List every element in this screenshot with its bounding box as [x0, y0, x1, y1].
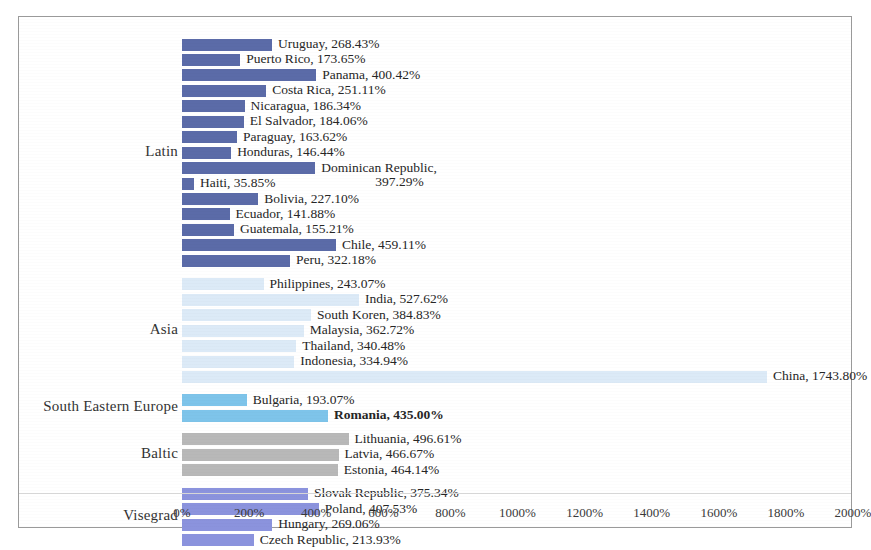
- bar-row: Chile, 459.11%: [19, 238, 851, 254]
- bar: [182, 147, 231, 159]
- bar: [182, 449, 339, 461]
- bar: [182, 394, 247, 406]
- bar-row: Thailand, 340.48%: [19, 339, 851, 355]
- bar-value-label: Guatemala, 155.21%: [240, 221, 354, 237]
- bar-value-label: Puerto Rico, 173.65%: [246, 51, 365, 67]
- bar-value-label: Philippines, 243.07%: [270, 276, 386, 292]
- bar-row: Haiti, 35.85%: [19, 176, 851, 192]
- bar: [182, 371, 767, 383]
- bar: [182, 433, 349, 445]
- bar: [182, 239, 336, 251]
- bar-row: Nicaragua, 186.34%: [19, 99, 851, 115]
- bar-row: Czech Republic, 213.93%: [19, 533, 851, 549]
- bar-value-label: Lithuania, 496.61%: [355, 431, 462, 447]
- bar-value-label: Haiti, 35.85%: [200, 175, 275, 191]
- bar: [182, 100, 245, 112]
- bar-value-label: Malaysia, 362.72%: [310, 322, 415, 338]
- bar-row: Ecuador, 141.88%: [19, 207, 851, 223]
- bar-row: Estonia, 464.14%: [19, 463, 851, 479]
- bar: [182, 309, 311, 321]
- bar-value-label: Ecuador, 141.88%: [236, 206, 336, 222]
- x-axis-tick-label: 800%: [435, 505, 465, 521]
- bar-value-label: Costa Rica, 251.11%: [272, 82, 385, 98]
- bar-row: Puerto Rico, 173.65%: [19, 52, 851, 68]
- bar-row: India, 527.62%: [19, 292, 851, 308]
- bar: [182, 255, 290, 267]
- x-axis-line: [19, 493, 851, 494]
- group-label-south-eastern-europe: South Eastern Europe: [43, 398, 178, 415]
- bar: [182, 69, 316, 81]
- bar-value-label: South Koren, 384.83%: [317, 307, 441, 323]
- x-axis-tick-label: 400%: [301, 505, 331, 521]
- bar: [182, 178, 194, 190]
- bar-row: China, 1743.80%: [19, 369, 851, 385]
- x-axis: 0%200%400%600%800%1000%1200%1400%1600%18…: [19, 487, 851, 527]
- bar: [182, 54, 240, 66]
- bar-row: Peru, 322.18%: [19, 253, 851, 269]
- bar-row: Guatemala, 155.21%: [19, 222, 851, 238]
- bar-row: Paraguay, 163.62%: [19, 130, 851, 146]
- bar-value-label: India, 527.62%: [365, 291, 448, 307]
- bar-row: Costa Rica, 251.11%: [19, 83, 851, 99]
- x-axis-tick-label: 600%: [368, 505, 398, 521]
- bar-row: Panama, 400.42%: [19, 68, 851, 84]
- bar: [182, 116, 244, 128]
- bar: [182, 131, 237, 143]
- bar-row: South Koren, 384.83%: [19, 308, 851, 324]
- x-axis-tick-label: 200%: [234, 505, 264, 521]
- group-label-asia: Asia: [150, 321, 178, 338]
- x-axis-tick-label: 1600%: [700, 505, 737, 521]
- bar-value-label: Thailand, 340.48%: [302, 338, 405, 354]
- bar: [182, 224, 234, 236]
- x-axis-tick-label: 1800%: [767, 505, 804, 521]
- bar-value-label: Honduras, 146.44%: [237, 144, 345, 160]
- bar-value-label: Romania, 435.00%: [334, 407, 444, 423]
- bar-value-label: Panama, 400.42%: [322, 67, 420, 83]
- bar-row: Philippines, 243.07%: [19, 277, 851, 293]
- chart-plot-area: Uruguay, 268.43%Puerto Rico, 173.65%Pana…: [19, 17, 851, 527]
- bar-value-label: Paraguay, 163.62%: [243, 129, 347, 145]
- x-axis-tick-label: 1400%: [633, 505, 670, 521]
- bar: [182, 356, 294, 368]
- bar: [182, 162, 315, 174]
- bar-value-label: Estonia, 464.14%: [344, 462, 440, 478]
- bar-row: Indonesia, 334.94%: [19, 354, 851, 370]
- x-axis-tick-label: 2000%: [835, 505, 871, 521]
- bar-value-label: Czech Republic, 213.93%: [260, 532, 401, 548]
- bar-value-label: El Salvador, 184.06%: [250, 113, 368, 129]
- bar-value-label: Latvia, 466.67%: [345, 446, 435, 462]
- bar-value-label: Indonesia, 334.94%: [300, 353, 408, 369]
- bar: [182, 294, 359, 306]
- bar: [182, 278, 264, 290]
- chart-frame: Uruguay, 268.43%Puerto Rico, 173.65%Pana…: [18, 16, 852, 528]
- group-label-baltic: Baltic: [141, 445, 178, 462]
- bar-row: Uruguay, 268.43%: [19, 37, 851, 53]
- bar: [182, 85, 266, 97]
- bar: [182, 340, 296, 352]
- bar-value-label: Nicaragua, 186.34%: [251, 98, 362, 114]
- bar: [182, 193, 258, 205]
- bar-row: Bolivia, 227.10%: [19, 192, 851, 208]
- bar-value-label: Peru, 322.18%: [296, 252, 376, 268]
- bar-row: Honduras, 146.44%: [19, 145, 851, 161]
- bar: [182, 325, 304, 337]
- bar-row: El Salvador, 184.06%: [19, 114, 851, 130]
- bar: [182, 534, 254, 546]
- bar: [182, 208, 230, 220]
- x-axis-tick-label: 1000%: [499, 505, 536, 521]
- x-axis-tick-label: 1200%: [566, 505, 603, 521]
- bar-value-label: Chile, 459.11%: [342, 237, 426, 253]
- bar-value-label: Uruguay, 268.43%: [278, 36, 379, 52]
- x-axis-tick-label: 0%: [173, 505, 190, 521]
- group-label-latin: Latin: [145, 143, 178, 160]
- bar-value-label: Bolivia, 227.10%: [264, 191, 359, 207]
- bar: [182, 39, 272, 51]
- bar-row: Dominican Republic,397.29%: [19, 161, 851, 177]
- bar-row: Malaysia, 362.72%: [19, 323, 851, 339]
- bar: [182, 410, 328, 422]
- bar-value-label: China, 1743.80%: [773, 368, 867, 384]
- bar-value-label: Bulgaria, 193.07%: [253, 392, 355, 408]
- bar: [182, 464, 338, 476]
